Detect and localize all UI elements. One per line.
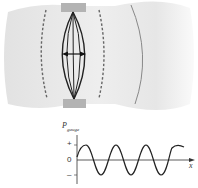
pressure-graph	[74, 135, 195, 184]
sound-wave-region	[4, 1, 194, 110]
y-axis-label: Pgauge	[62, 121, 79, 132]
sound-wave-diagram	[0, 0, 198, 188]
x-axis-label: x	[189, 161, 193, 170]
y-tick-minus: –	[67, 170, 71, 179]
y-tick-plus: +	[67, 139, 72, 148]
bottom-clamp	[63, 99, 86, 108]
y-tick-zero: 0	[67, 155, 71, 164]
y-label-sub: gauge	[67, 127, 79, 132]
top-clamp	[61, 3, 86, 12]
